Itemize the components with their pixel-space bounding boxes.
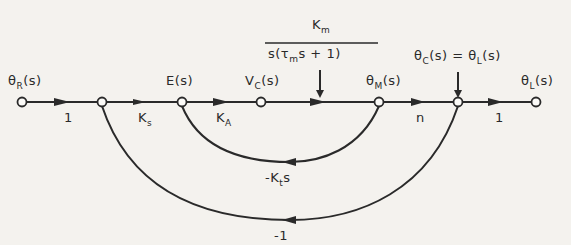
gain-label-ks: Ks xyxy=(138,110,152,125)
node-label-theta-l: θL(s) xyxy=(521,73,553,88)
gain-label-minus1: -1 xyxy=(274,228,288,243)
arrow-down-icon xyxy=(316,90,324,98)
gain-label-1-out: 1 xyxy=(495,110,504,125)
node-label-e: E(s) xyxy=(166,73,193,88)
arrow-icon xyxy=(54,98,70,106)
feedback-branch-minus1 xyxy=(102,106,458,220)
arrow-icon xyxy=(213,98,229,106)
node-theta-r xyxy=(18,98,27,107)
node-theta-c xyxy=(454,98,463,107)
arrow-icon xyxy=(411,98,425,106)
gain-label-ka: KA xyxy=(216,110,232,125)
gain-label-kt-s: -Kts xyxy=(265,170,291,185)
arrow-icon xyxy=(488,98,503,106)
gain-label-n: n xyxy=(416,110,425,125)
arrow-icon xyxy=(282,216,296,224)
node-label-vc: VC(s) xyxy=(245,73,280,88)
node-vc xyxy=(257,98,266,107)
gain-label-km-numerator: Km xyxy=(312,17,330,32)
arrow-icon xyxy=(310,98,326,106)
node-theta-m xyxy=(375,98,384,107)
arrow-icon xyxy=(133,99,146,105)
node-label-theta-c: θC(s) = θL(s) xyxy=(414,48,501,63)
gain-label-km-denominator: s(τms + 1) xyxy=(268,46,341,61)
gain-label-1: 1 xyxy=(64,110,73,125)
node-e xyxy=(178,98,187,107)
signal-flow-graph xyxy=(0,0,571,245)
node-summing xyxy=(98,98,107,107)
node-theta-l xyxy=(532,98,541,107)
node-label-theta-m: θM(s) xyxy=(366,73,401,88)
feedback-branch-kt xyxy=(182,106,379,162)
arrow-icon xyxy=(282,158,296,166)
node-label-theta-r: θR(s) xyxy=(8,73,42,88)
